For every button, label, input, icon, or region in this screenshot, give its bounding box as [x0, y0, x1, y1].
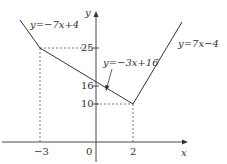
y-tick-16: 16 — [81, 81, 94, 91]
label-left-piece: y=−7x+4 — [30, 20, 79, 30]
x-tick-2: 2 — [130, 147, 136, 157]
x-axis-label: x — [181, 148, 187, 158]
y-tick-25: 25 — [81, 43, 94, 53]
label-right-piece: y=7x−4 — [178, 39, 219, 49]
label-middle-piece: y=−3x+16 — [103, 58, 159, 68]
y-tick-10: 10 — [81, 99, 94, 109]
y-axis-arrow-icon — [94, 11, 99, 17]
x-axis-arrow-icon — [182, 140, 188, 145]
pointer-arrow-icon — [105, 85, 110, 91]
function-graph: y=−7x+4 y=−3x+16 y=7x−4 25 16 10 −3 0 2 … — [0, 0, 227, 164]
y-axis-label: y — [85, 8, 91, 18]
x-tick-neg3: −3 — [34, 147, 49, 157]
pointer-line — [107, 69, 112, 87]
x-tick-0: 0 — [86, 147, 92, 157]
